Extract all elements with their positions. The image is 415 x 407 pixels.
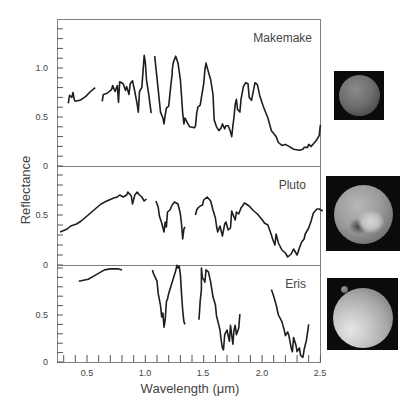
spectra-curves	[60, 55, 323, 357]
spectrum-eris	[79, 269, 122, 281]
y-axis-title: Reflectance	[18, 156, 33, 225]
x-axis-title: Wavelength (μm)	[141, 381, 240, 396]
spectrum-pluto	[196, 197, 323, 257]
makemake-disc	[339, 75, 380, 116]
pluto-tick-0: 0	[43, 260, 48, 270]
spectrum-eris	[199, 268, 240, 350]
x-tick-1.0: 1.0	[139, 368, 152, 378]
eris-tick-0.5: 0.5	[35, 310, 48, 320]
eris-image	[327, 278, 398, 350]
pluto-disc	[334, 185, 393, 244]
makemake-tick-0.5: 0.5	[35, 112, 48, 122]
x-tick-labels: 0.5 1.0 1.5 2.0 2.5	[81, 368, 327, 378]
panel-label-eris: Eris	[285, 277, 306, 291]
pluto-tick-0.5: 0.5	[35, 210, 48, 220]
spectrum-makemake	[68, 88, 95, 104]
makemake-image	[334, 71, 384, 120]
eris-disc	[333, 288, 393, 348]
x-tick-2.0: 2.0	[256, 368, 269, 378]
eris-tick-0: 0	[43, 357, 48, 367]
spectrum-pluto	[60, 192, 146, 232]
spectrum-makemake	[102, 55, 151, 113]
x-tick-2.5: 2.5	[314, 368, 327, 378]
spectrum-eris	[152, 265, 185, 327]
pluto-image	[326, 176, 400, 251]
x-tick-1.5: 1.5	[197, 368, 210, 378]
spectrum-eris	[271, 290, 308, 358]
panel-labels: Makemake Pluto Eris	[253, 31, 312, 291]
spectrum-makemake	[155, 56, 321, 150]
panel-label-pluto: Pluto	[279, 178, 307, 192]
makemake-tick-1.0: 1.0	[35, 63, 48, 73]
x-tick-marks	[64, 355, 321, 362]
x-tick-0.5: 0.5	[81, 368, 94, 378]
panel-label-makemake: Makemake	[253, 31, 312, 45]
spectrum-pluto	[156, 201, 185, 239]
makemake-tick-0: 0	[43, 161, 48, 171]
y-tick-labels: 1.0 0.5 0 0.5 0 0.5 0	[35, 63, 48, 367]
